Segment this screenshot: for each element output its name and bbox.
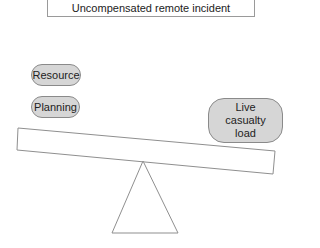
fulcrum-triangle bbox=[112, 161, 178, 233]
live-label: Live bbox=[235, 101, 255, 114]
planning-pill: Planning bbox=[31, 96, 80, 118]
resource-pill: Resource bbox=[31, 64, 81, 86]
live-casualty-load-pill: Live casualty load bbox=[208, 98, 283, 143]
casualty-label: casualty bbox=[225, 114, 265, 127]
planning-label: Planning bbox=[34, 101, 77, 114]
load-label: load bbox=[235, 127, 256, 140]
resource-label: Resource bbox=[32, 69, 79, 82]
